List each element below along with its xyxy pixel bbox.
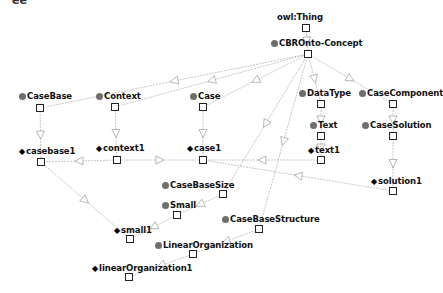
individual-diamond-icon: ◆	[114, 226, 120, 236]
node-label-cbro[interactable]: CBROnto-Concept	[271, 38, 363, 48]
node-name: DataType	[307, 88, 351, 98]
node-name: casebase1	[26, 146, 75, 156]
node-name: CaseBaseStructure	[230, 214, 320, 224]
node-expand-box-text[interactable]	[317, 132, 325, 140]
node-expand-box-case1[interactable]	[199, 156, 207, 164]
node-expand-box-linearorg1[interactable]	[125, 273, 133, 281]
node-label-casebasesize[interactable]: CaseBaseSize	[162, 180, 234, 190]
node-label-case1[interactable]: ◆case1	[187, 143, 221, 154]
node-expand-box-casebase1[interactable]	[37, 158, 45, 166]
node-label-casebasestructure[interactable]: CaseBaseStructure	[222, 214, 320, 224]
arrowhead-icon	[170, 76, 179, 84]
node-label-solution1[interactable]: ◆solution1	[371, 176, 422, 187]
class-circle-icon	[222, 216, 229, 223]
arrowhead-icon	[263, 119, 271, 128]
individual-diamond-icon: ◆	[19, 147, 25, 157]
node-label-small[interactable]: Small	[162, 200, 196, 210]
node-name: CaseBaseSize	[170, 180, 234, 190]
node-label-casecomponent[interactable]: CaseComponent	[359, 88, 443, 98]
node-expand-box-owlThing[interactable]	[302, 24, 310, 32]
node-name: Small	[170, 200, 196, 210]
node-expand-box-text1[interactable]	[317, 156, 325, 164]
node-label-owlThing[interactable]: owl:Thing	[277, 12, 323, 22]
arrowhead-icon	[196, 199, 205, 206]
individual-diamond-icon: ◆	[371, 177, 377, 187]
node-expand-box-case[interactable]	[199, 103, 207, 111]
arrowhead-icon	[389, 160, 397, 168]
class-circle-icon	[362, 122, 369, 129]
node-name: Text	[318, 120, 338, 130]
class-circle-icon	[310, 122, 317, 129]
node-expand-box-small[interactable]	[173, 211, 181, 219]
node-name: case1	[194, 143, 221, 153]
class-circle-icon	[155, 242, 162, 249]
arrowhead-icon	[310, 74, 318, 83]
arrowhead-icon	[75, 157, 83, 165]
node-name: LinearOrganization	[163, 240, 253, 250]
node-label-casebase1[interactable]: ◆casebase1	[19, 146, 75, 157]
node-label-text[interactable]: Text	[310, 120, 338, 130]
node-name: Case	[198, 91, 220, 101]
arrowhead-icon	[199, 130, 207, 138]
class-circle-icon	[271, 40, 278, 47]
node-name: linearOrganization1	[99, 263, 192, 273]
node-name: CaseSolution	[370, 120, 431, 130]
node-label-context[interactable]: Context	[96, 91, 141, 101]
class-circle-icon	[19, 93, 26, 100]
node-label-casesolution[interactable]: CaseSolution	[362, 120, 431, 130]
node-expand-box-casebasesize[interactable]	[219, 190, 227, 198]
node-expand-box-casesolution[interactable]	[389, 132, 397, 140]
arrowhead-icon	[294, 172, 303, 180]
node-name: CBROnto-Concept	[279, 38, 363, 48]
node-name: CaseBase	[27, 91, 72, 101]
class-circle-icon	[162, 202, 169, 209]
node-name: context1	[103, 143, 144, 153]
node-name: text1	[315, 145, 340, 155]
node-name: CaseComponent	[367, 88, 443, 98]
node-label-linearorg[interactable]: LinearOrganization	[155, 240, 253, 250]
arrowhead-icon	[80, 195, 89, 203]
node-name: Context	[104, 91, 141, 101]
arrowhead-icon	[345, 74, 354, 82]
node-expand-box-solution1[interactable]	[389, 187, 397, 195]
class-circle-icon	[299, 90, 306, 97]
arrowhead-icon	[156, 156, 164, 164]
arrowhead-icon	[36, 131, 44, 139]
class-circle-icon	[162, 182, 169, 189]
individual-diamond-icon: ◆	[92, 264, 98, 274]
node-label-case[interactable]: Case	[190, 91, 220, 101]
node-name: owl:Thing	[277, 12, 323, 22]
arrowhead-icon	[208, 76, 217, 84]
node-expand-box-datatype[interactable]	[317, 100, 325, 108]
node-name: small1	[121, 225, 152, 235]
node-label-text1[interactable]: ◆text1	[308, 145, 340, 156]
node-expand-box-casebase[interactable]	[36, 104, 44, 112]
class-circle-icon	[359, 90, 366, 97]
individual-diamond-icon: ◆	[308, 146, 314, 156]
arrowhead-icon	[258, 156, 266, 164]
node-label-datatype[interactable]: DataType	[299, 88, 351, 98]
node-expand-box-casecomponent[interactable]	[389, 100, 397, 108]
class-circle-icon	[190, 93, 197, 100]
node-label-linearorg1[interactable]: ◆linearOrganization1	[92, 263, 192, 274]
node-expand-box-casebasestructure[interactable]	[255, 225, 263, 233]
node-expand-box-cbro[interactable]	[304, 50, 312, 58]
class-circle-icon	[96, 93, 103, 100]
node-label-context1[interactable]: ◆context1	[96, 143, 144, 154]
node-expand-box-small1[interactable]	[126, 235, 134, 243]
node-name: solution1	[378, 176, 422, 186]
individual-diamond-icon: ◆	[96, 144, 102, 154]
arrowhead-icon	[112, 129, 120, 137]
node-expand-box-linearorg[interactable]	[189, 250, 197, 258]
node-expand-box-context[interactable]	[111, 103, 119, 111]
node-expand-box-context1[interactable]	[113, 156, 121, 164]
arrowhead-icon	[281, 137, 289, 146]
individual-diamond-icon: ◆	[187, 144, 193, 154]
node-label-casebase[interactable]: CaseBase	[19, 91, 72, 101]
